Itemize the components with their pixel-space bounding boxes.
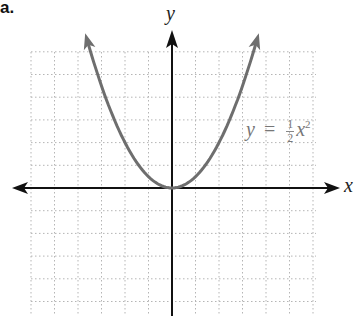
fraction-numerator: 1 (286, 118, 294, 132)
y-axis-label: y (166, 2, 175, 25)
equation-variable: x (296, 118, 305, 140)
fraction-denominator: 2 (286, 132, 294, 145)
equation-lhs: y (246, 118, 255, 140)
graph-plot (0, 0, 359, 316)
axes (12, 30, 340, 316)
equation-exponent: 2 (305, 118, 311, 130)
equation-label: y = 1 2 x2 (246, 118, 311, 145)
part-label: a. (0, 0, 14, 18)
equation-fraction: 1 2 (286, 118, 294, 145)
x-axis-label: x (344, 174, 353, 197)
grid-lines (31, 52, 316, 316)
equation-equals: = (264, 118, 275, 140)
